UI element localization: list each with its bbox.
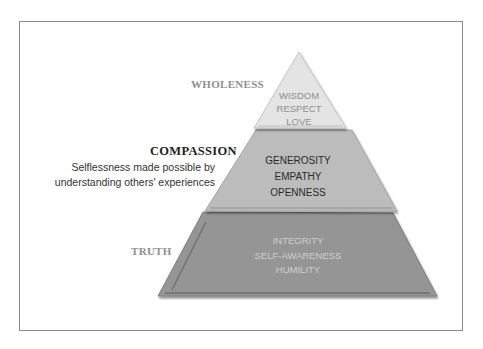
tier-item: HUMILITY (255, 263, 342, 278)
tier-item: OPENNESS (265, 185, 331, 201)
tier-bottom-items: INTEGRITY SELF-AWARENESS HUMILITY (255, 234, 342, 278)
tier-item: GENEROSITY (265, 153, 331, 169)
tier-item: WISDOM (277, 89, 322, 102)
tier-label-truth: TRUTH (131, 245, 172, 257)
tier-item: INTEGRITY (255, 234, 342, 249)
tier-item: RESPECT (277, 102, 322, 115)
description-line: Selflessness made possible by (55, 160, 215, 175)
tier-label-wholeness: WHOLENESS (191, 78, 264, 90)
tier-item: EMPATHY (265, 169, 331, 185)
tier-item: LOVE (277, 115, 322, 128)
tier-top-items: WISDOM RESPECT LOVE (277, 89, 322, 128)
description-line: understanding others' experiences (55, 175, 215, 190)
tier-label-compassion: COMPASSION (150, 144, 237, 159)
tier-middle-items: GENEROSITY EMPATHY OPENNESS (265, 153, 331, 201)
compassion-description: Selflessness made possible by understand… (55, 160, 215, 190)
tier-item: SELF-AWARENESS (255, 249, 342, 264)
